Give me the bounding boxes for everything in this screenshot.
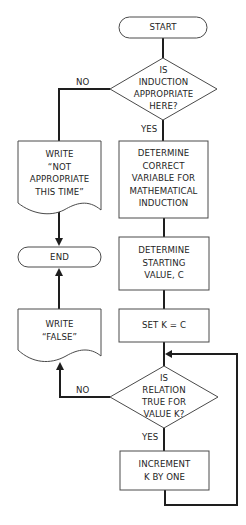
set-k-label: SET K = C [119, 319, 209, 332]
decision-text-line: IS [110, 372, 218, 384]
process-text-line: DETERMINE [119, 147, 208, 160]
start-label: START [119, 21, 207, 34]
process-text-line: INCREMENT [120, 458, 209, 471]
increment-k-label: INCREMENT K BY ONE [120, 458, 209, 483]
arrow-left-icon [165, 350, 172, 358]
relation-yes-label: YES [142, 432, 158, 442]
decision-text-line: IS [110, 64, 217, 76]
determine-variable-label: DETERMINE CORRECT VARIABLE FOR MATHEMATI… [119, 147, 208, 210]
induction-no-label: NO [76, 77, 89, 87]
process-text-line: SET K = C [119, 319, 209, 332]
process-text-line: STARTING [119, 257, 209, 270]
decision-text-line: RELATION [110, 384, 218, 396]
document-text-line: WRITE [18, 318, 101, 331]
process-text-line: VALUE, C [119, 269, 209, 282]
arrow-down-icon [55, 238, 63, 246]
process-text-line: CORRECT [119, 160, 208, 173]
decision-text-line: HERE? [110, 100, 217, 112]
process-text-line: MATHEMATICAL [119, 185, 208, 198]
induction-yes-label: YES [141, 124, 157, 134]
document-text-line: THIS TIME” [18, 186, 101, 199]
decision-text-line: APPROPRIATE [110, 88, 217, 100]
document-text-line: APPROPRIATE [18, 173, 101, 186]
process-text-line: INDUCTION [119, 197, 208, 210]
document-text-line: “FALSE” [18, 331, 101, 344]
relation-no-label: NO [76, 385, 89, 395]
end-text: END [18, 251, 101, 264]
connector-induction-no [59, 89, 110, 141]
document-text-line: “NOT [18, 161, 101, 174]
end-label: END [18, 251, 101, 264]
process-text-line: K BY ONE [120, 471, 209, 484]
write-not-appropriate-label: WRITE “NOT APPROPRIATE THIS TIME” [18, 148, 101, 198]
arrow-up-icon [55, 268, 63, 276]
decision-text-line: VALUE K? [110, 408, 218, 420]
document-text-line: WRITE [18, 148, 101, 161]
relation-decision-label: IS RELATION TRUE FOR VALUE K? [110, 372, 218, 420]
arrow-up-icon [56, 362, 64, 370]
process-text-line: VARIABLE FOR [119, 172, 208, 185]
decision-text-line: INDUCTION [110, 76, 217, 88]
process-text-line: DETERMINE [119, 244, 209, 257]
decision-text-line: TRUE FOR [110, 396, 218, 408]
induction-decision-label: IS INDUCTION APPROPRIATE HERE? [110, 64, 217, 112]
determine-starting-label: DETERMINE STARTING VALUE, C [119, 244, 209, 282]
write-false-label: WRITE “FALSE” [18, 318, 101, 343]
start-text: START [119, 21, 207, 34]
